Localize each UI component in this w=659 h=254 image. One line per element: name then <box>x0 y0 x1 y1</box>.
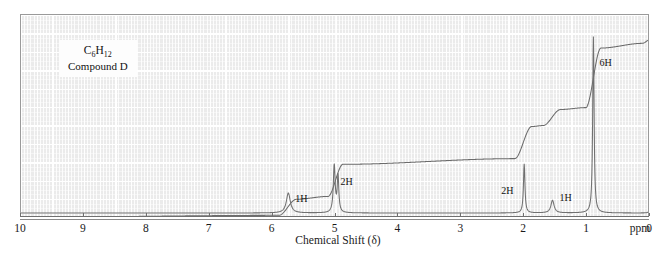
axis-tick-5 <box>335 213 336 216</box>
integration-label-2h-5: 2H <box>341 176 353 187</box>
plot-area: C6H12 Compound D <box>20 14 649 216</box>
axis-line-upper <box>20 216 649 217</box>
molecular-formula: C6H12 <box>68 43 128 60</box>
axis-tick-6 <box>272 213 273 216</box>
axis-tick-0 <box>649 213 650 216</box>
integration-label-6h-0-9: 6H <box>599 57 611 68</box>
axis-tick-label-7: 7 <box>206 222 212 234</box>
axis-tick-8 <box>146 213 147 216</box>
axis-tick-label-0: 0 <box>646 222 652 234</box>
axis-tick-9 <box>83 213 84 216</box>
axis-tick-label-8: 8 <box>143 222 149 234</box>
formula-h-count: 12 <box>104 50 112 59</box>
axis-line-lower <box>20 219 649 220</box>
axis-tick-label-4: 4 <box>395 222 401 234</box>
axis-tick-label-10: 10 <box>14 222 26 234</box>
axis-tick-7 <box>209 213 210 216</box>
axis-tick-1 <box>586 213 587 216</box>
axis-tick-label-6: 6 <box>269 222 275 234</box>
axis-tick-label-2: 2 <box>520 222 526 234</box>
axis-tick-4 <box>397 213 398 216</box>
integration-label-1h-1-55: 1H <box>560 192 572 203</box>
integration-label-1h-5-75: 1H <box>295 193 307 204</box>
axis-tick-label-9: 9 <box>80 222 86 234</box>
axis-tick-2 <box>523 213 524 216</box>
formula-h: H <box>95 44 103 56</box>
axis-tick-label-1: 1 <box>583 222 589 234</box>
x-axis-title: Chemical Shift (δ) <box>295 234 380 246</box>
axis-tick-3 <box>460 213 461 216</box>
axis-tick-10 <box>20 213 21 216</box>
axis-tick-label-3: 3 <box>457 222 463 234</box>
compound-name: Compound D <box>68 60 128 73</box>
compound-label-box: C6H12 Compound D <box>59 40 137 77</box>
integration-label-2h-2: 2H <box>501 185 513 196</box>
axis-tick-label-5: 5 <box>332 222 338 234</box>
nmr-spectrum-figure: C6H12 Compound D ppm Chemical Shift (δ) … <box>0 0 659 254</box>
